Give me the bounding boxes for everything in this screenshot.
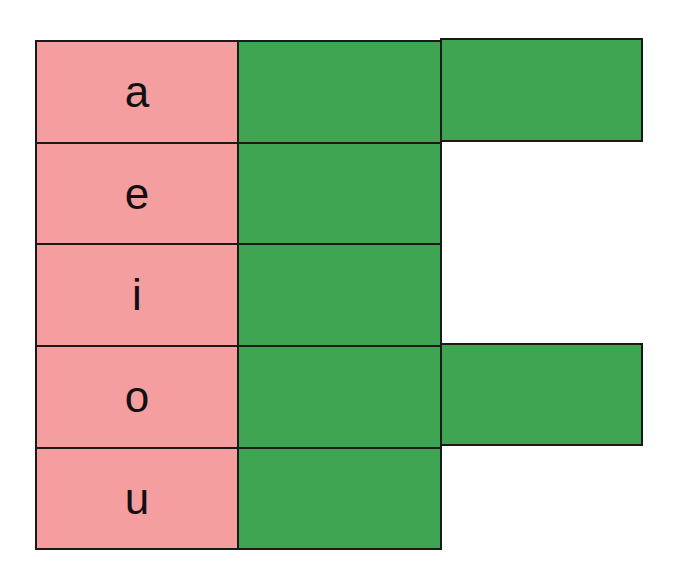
label-cell-u: u — [35, 447, 239, 550]
filled-cell — [237, 40, 442, 144]
label-cell-a: a — [35, 40, 239, 144]
filled-cell — [237, 243, 442, 347]
label-cell-o: o — [35, 345, 239, 449]
row-label: e — [125, 169, 149, 219]
filled-cell — [237, 345, 442, 449]
filled-cell — [440, 38, 643, 142]
row-label: u — [125, 474, 149, 524]
filled-cell — [237, 142, 442, 245]
label-cell-e: e — [35, 142, 239, 245]
row-label: a — [125, 67, 149, 117]
row-label: i — [132, 270, 142, 320]
row-label: o — [125, 372, 149, 422]
label-cell-i: i — [35, 243, 239, 347]
filled-cell — [440, 343, 643, 446]
filled-cell — [237, 447, 442, 550]
